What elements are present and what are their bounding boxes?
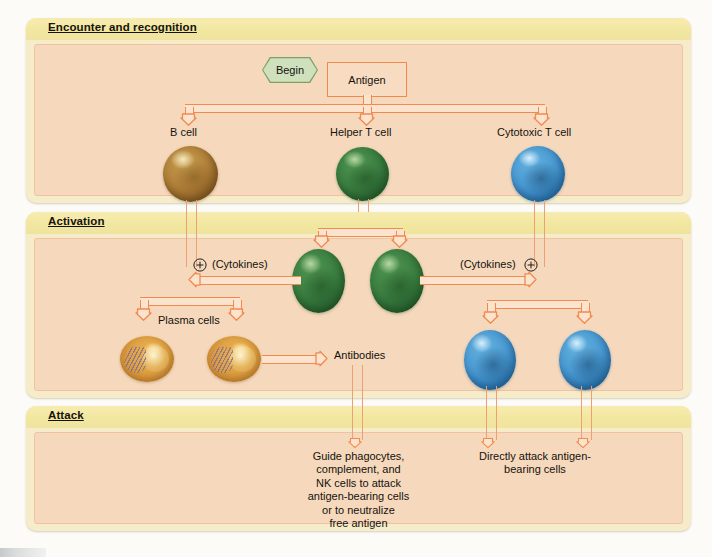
outcome-cyto-line-2: bearing cells xyxy=(504,463,566,475)
stage-title-activation: Activation xyxy=(48,215,105,227)
arrowhead-to-cytotoxic-t xyxy=(533,113,550,126)
arrowhead-plasma-right xyxy=(228,308,245,321)
arrowhead-to-helper-t xyxy=(358,113,375,126)
trunk-cytotoxic-right-down-2 xyxy=(581,406,592,440)
outcome-line-2: complement, and xyxy=(316,463,400,475)
antigen-node: Antigen xyxy=(327,62,407,97)
begin-label: Begin xyxy=(276,64,304,76)
cytotoxic-t-cell-label: Cytotoxic T cell xyxy=(497,126,571,138)
antigen-label: Antigen xyxy=(348,74,385,86)
outcome-line-1: Guide phagocytes, xyxy=(313,450,405,462)
cytotoxic-clone-right-figure xyxy=(559,330,611,390)
plasma-cell-right-er xyxy=(211,347,233,373)
connector-plasma-bus xyxy=(140,297,240,306)
arrowhead-helper-clone-right xyxy=(391,235,408,248)
plasma-cell-left-er xyxy=(124,347,146,373)
outcome-line-3: NK cells to attack xyxy=(316,477,401,489)
b-cell-figure xyxy=(163,146,218,202)
helper-t-cell-figure xyxy=(336,147,389,201)
arrowhead-helper-clone-left xyxy=(313,235,330,248)
cytokines-left-label: (Cytokines) xyxy=(212,258,268,270)
connector-cytotoxic-split-bus xyxy=(487,300,588,309)
arrowhead-cytokines-right xyxy=(524,271,537,288)
arrowhead-cytokines-left xyxy=(188,271,201,288)
helper-t-clone-right-figure xyxy=(370,249,424,313)
connector-antibodies xyxy=(262,355,317,364)
arrowhead-plasma-left xyxy=(135,308,152,321)
arrowhead-cytotoxic-clone-right xyxy=(576,311,593,324)
stage-title-encounter: Encounter and recognition xyxy=(48,21,197,33)
plus-circle-left-icon xyxy=(193,258,207,272)
cytotoxic-t-cell-figure xyxy=(511,146,565,202)
cropped-caption-edge xyxy=(0,548,46,557)
arrowhead-attack-cytotoxic-left xyxy=(481,437,495,449)
begin-node: Begin xyxy=(263,58,317,82)
arrowhead-attack-antibodies xyxy=(348,437,362,449)
arrowhead-cytotoxic-clone-left xyxy=(482,311,499,324)
b-cell-label: B cell xyxy=(170,126,197,138)
cytotoxic-clone-left-figure xyxy=(464,330,516,390)
helper-t-cell-label: Helper T cell xyxy=(330,126,391,138)
plasma-cell-left-figure xyxy=(120,336,174,382)
connector-cytokines-right xyxy=(420,276,525,285)
outcome-antibodies-text: Guide phagocytes, complement, and NK cel… xyxy=(276,450,441,530)
stage-title-attack: Attack xyxy=(48,409,84,421)
outcome-cyto-line-1: Directly attack antigen- xyxy=(479,450,591,462)
arrowhead-to-bcell xyxy=(180,113,197,126)
connector-cytokines-left xyxy=(196,276,301,285)
arrowhead-attack-cytotoxic-right xyxy=(576,437,590,449)
cytokines-right-label: (Cytokines) xyxy=(460,258,516,270)
outcome-cytotoxic-text: Directly attack antigen- bearing cells xyxy=(460,450,610,477)
outcome-line-6: free antigen xyxy=(329,517,387,529)
plus-circle-right-icon xyxy=(524,258,538,272)
arrowhead-antibodies xyxy=(315,350,328,367)
outcome-line-4: antigen-bearing cells xyxy=(308,490,410,502)
plasma-cell-right-figure xyxy=(207,336,261,382)
trunk-antibodies-down-2 xyxy=(352,406,363,440)
outcome-line-5: or to neutralize xyxy=(322,504,395,516)
antibodies-label: Antibodies xyxy=(334,349,385,361)
diagram-canvas: Encounter and recognition Begin Antigen … xyxy=(0,0,712,557)
trunk-cytotoxic-left-down-2 xyxy=(486,406,497,440)
plasma-cells-label: Plasma cells xyxy=(158,314,220,326)
